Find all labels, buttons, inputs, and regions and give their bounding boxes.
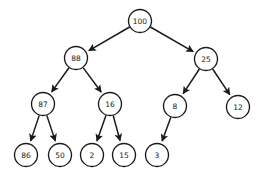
node-label-50: 50 xyxy=(55,151,65,160)
node-label-8: 8 xyxy=(173,102,178,111)
node-label-12: 12 xyxy=(233,103,243,112)
node-label-87: 87 xyxy=(38,100,48,109)
tree-node-2[interactable]: 2 xyxy=(81,144,104,167)
tree-edge-87-to-86 xyxy=(31,115,39,140)
tree-edge-88-to-16 xyxy=(83,68,101,92)
tree-edge-88-to-87 xyxy=(52,68,69,92)
tree-edge-16-to-15 xyxy=(113,116,120,141)
tree-node-25[interactable]: 25 xyxy=(195,48,218,71)
tree-edge-100-to-25 xyxy=(150,27,193,52)
node-label-88: 88 xyxy=(71,54,81,63)
tree-node-88[interactable]: 88 xyxy=(65,47,88,70)
edges-layer xyxy=(31,27,230,141)
node-label-25: 25 xyxy=(201,55,211,64)
tree-node-15[interactable]: 15 xyxy=(113,144,136,167)
tree-node-100[interactable]: 100 xyxy=(129,10,152,33)
nodes-layer: 1008825871681286502153 xyxy=(15,10,250,167)
tree-canvas: 1008825871681286502153 xyxy=(0,0,264,180)
binary-tree-diagram: 1008825871681286502153 xyxy=(0,0,264,180)
node-label-2: 2 xyxy=(90,151,95,160)
tree-edge-8-to-3 xyxy=(162,117,171,141)
tree-edge-87-to-50 xyxy=(47,115,55,140)
node-label-3: 3 xyxy=(155,151,160,160)
tree-node-50[interactable]: 50 xyxy=(49,144,72,167)
node-label-86: 86 xyxy=(21,151,31,160)
tree-node-16[interactable]: 16 xyxy=(99,93,122,116)
tree-edge-25-to-8 xyxy=(183,69,199,94)
node-label-100: 100 xyxy=(133,17,148,26)
node-label-15: 15 xyxy=(119,151,129,160)
tree-node-86[interactable]: 86 xyxy=(15,144,38,167)
node-label-16: 16 xyxy=(105,100,115,109)
tree-edge-25-to-12 xyxy=(213,69,230,95)
tree-edge-100-to-88 xyxy=(89,27,130,51)
tree-node-8[interactable]: 8 xyxy=(164,95,187,118)
tree-node-87[interactable]: 87 xyxy=(32,93,55,116)
tree-node-12[interactable]: 12 xyxy=(227,96,250,119)
tree-edge-16-to-2 xyxy=(97,115,106,141)
tree-node-3[interactable]: 3 xyxy=(146,144,169,167)
